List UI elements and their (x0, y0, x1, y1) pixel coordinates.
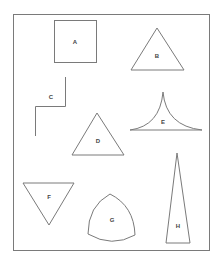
shape-f-label: F (47, 194, 51, 200)
shape-d-label: D (96, 138, 101, 144)
shape-a-label: A (73, 39, 78, 45)
shape-f-inverted-triangle: F (23, 183, 74, 225)
shape-c-step: C (36, 77, 66, 136)
shape-c-label: C (49, 94, 54, 100)
shape-h-label: H (176, 223, 180, 229)
shapes-diagram: A B C D E F G H (0, 0, 224, 262)
shape-b-triangle: B (131, 28, 184, 70)
shape-e-label: E (161, 119, 165, 125)
shape-h-tall-triangle: H (166, 153, 190, 243)
shape-g-reuleaux-triangle: G (88, 194, 135, 241)
shape-b-label: B (155, 53, 160, 59)
shape-d-triangle: D (72, 113, 124, 155)
shape-a-square: A (55, 21, 97, 63)
shape-e-concave-triangle: E (130, 92, 202, 130)
shape-g-label: G (110, 217, 115, 223)
